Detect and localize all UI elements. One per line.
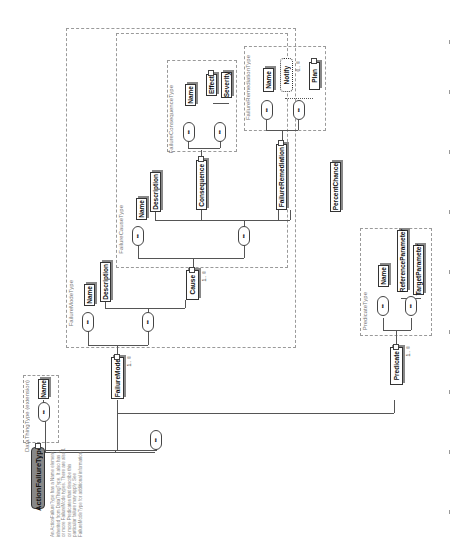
element-cause[interactable]: Cause	[186, 270, 199, 300]
data-thing-type-label: DataThingType (extension)	[24, 380, 30, 452]
expand-icon[interactable]	[278, 140, 284, 146]
sequence-icon[interactable]: •••	[150, 430, 162, 450]
element-effect[interactable]: Effect	[206, 74, 217, 96]
sequence-icon[interactable]: •••	[214, 122, 226, 142]
multiplicity-label: 1..∞	[405, 345, 411, 357]
connector	[201, 210, 202, 220]
element-name[interactable]: Name	[84, 284, 95, 306]
connector	[185, 300, 186, 308]
element-name[interactable]: Name	[38, 379, 49, 399]
element-name[interactable]: Name	[378, 265, 389, 287]
connector	[266, 120, 267, 130]
element-reference-parameter[interactable]: ReferenceParameter	[397, 230, 408, 292]
connector	[244, 245, 245, 258]
connector	[45, 420, 46, 452]
connector	[188, 148, 220, 149]
expand-icon[interactable]	[198, 156, 204, 162]
element-description[interactable]: Description	[150, 172, 161, 212]
sequence-icon[interactable]: •••	[238, 226, 250, 246]
element-target-parameter[interactable]: TargetParameter	[413, 245, 424, 295]
predicate-type-label: PredicateType	[362, 292, 368, 330]
connector	[266, 130, 298, 131]
connector	[138, 245, 139, 258]
element-name[interactable]: Name	[136, 198, 147, 220]
connector	[383, 318, 384, 330]
sequence-icon[interactable]: •••	[261, 100, 273, 120]
expand-icon[interactable]	[311, 58, 317, 64]
sequence-icon[interactable]: •••	[405, 296, 417, 316]
connector	[88, 345, 148, 346]
sequence-icon[interactable]: •••	[38, 402, 50, 422]
failure-cause-type-label: FailureCauseType	[118, 205, 124, 254]
expand-icon[interactable]	[393, 344, 399, 350]
connector	[138, 258, 244, 259]
element-percent-chance[interactable]: PercentChance	[330, 162, 341, 212]
connector	[298, 120, 299, 130]
sequence-icon[interactable]: •••	[293, 100, 305, 120]
root-element-action-failure-type[interactable]: ActionFailureType	[31, 447, 45, 509]
element-predicate[interactable]: Predicate	[390, 347, 403, 385]
sequence-icon[interactable]: •••	[132, 226, 144, 246]
connector	[117, 400, 118, 413]
root-description: An ActionFailureType has a Name element …	[50, 447, 102, 537]
multiplicity-label: 1..∞	[201, 270, 207, 282]
connector	[411, 318, 412, 330]
element-name[interactable]: Name	[263, 68, 274, 92]
sequence-icon[interactable]: •••	[82, 312, 94, 332]
element-plan[interactable]: Plan	[309, 62, 320, 90]
connector	[394, 400, 395, 413]
connector	[117, 413, 118, 450]
element-description[interactable]: Description	[100, 262, 111, 302]
sequence-icon[interactable]: •••	[183, 122, 195, 142]
expand-icon[interactable]	[35, 443, 41, 449]
connector	[383, 330, 411, 331]
failure-remediation-type-label: FailureRemediationType	[245, 55, 251, 120]
connector	[396, 330, 397, 344]
element-name[interactable]: Name	[185, 84, 196, 106]
multiplicity-label: 0..∞	[295, 60, 301, 72]
sequence-icon[interactable]: •••	[377, 296, 389, 316]
failure-mode-type-label: FailureModeType	[68, 280, 74, 326]
connector	[278, 210, 279, 220]
connector	[155, 220, 290, 221]
expand-icon[interactable]	[208, 70, 214, 76]
connector	[105, 308, 185, 309]
connector	[290, 210, 291, 220]
element-consequence[interactable]: Consequence	[196, 160, 207, 210]
expand-icon[interactable]	[114, 354, 120, 360]
connector	[213, 103, 229, 104]
connector	[148, 330, 149, 345]
sequence-icon[interactable]: •••	[142, 312, 154, 332]
failure-consequence-type-label: FailureConsequenceType	[168, 85, 174, 153]
element-notify[interactable]: Notify	[280, 58, 293, 92]
connector	[88, 330, 89, 345]
connector	[117, 413, 394, 414]
element-failure-remediation[interactable]: FailureRemediation	[276, 144, 287, 210]
multiplicity-label: 1..∞	[126, 355, 132, 367]
element-severity[interactable]: Severity	[221, 72, 232, 98]
expand-icon[interactable]	[189, 267, 195, 273]
root-element-label: ActionFailureType	[34, 446, 43, 511]
element-failure-mode[interactable]: FailureMode	[111, 357, 124, 399]
